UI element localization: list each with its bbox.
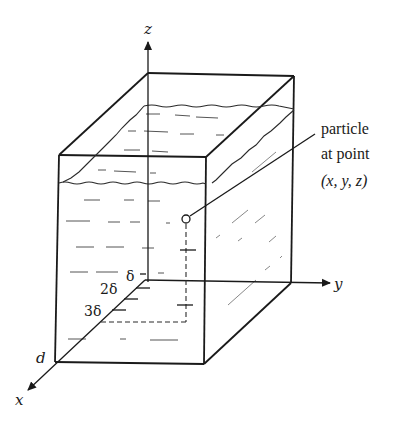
y-axis-label: y xyxy=(333,275,343,293)
annotation-line-1: particle xyxy=(321,120,369,138)
x-axis-label: x xyxy=(15,391,24,409)
tick-label-2delta: 2δ xyxy=(100,281,117,297)
particle-marker xyxy=(182,215,190,223)
tank-edges xyxy=(55,73,294,364)
y-axis xyxy=(145,280,330,283)
annotation-line-3: (x, y, z) xyxy=(321,172,367,190)
water-surface xyxy=(59,105,294,184)
z-axis-label: z xyxy=(143,20,152,38)
annotation-leader-line xyxy=(190,134,315,216)
axes xyxy=(28,42,330,390)
x-axis xyxy=(28,280,145,390)
tick-label-3delta: 3δ xyxy=(84,303,101,319)
annotation-line-2: at point xyxy=(321,145,370,163)
depth-label: d xyxy=(36,349,46,367)
tick-label-delta: δ xyxy=(126,268,134,284)
tank-diagram: z y x d δ 2δ 3δ particle at point (x, y,… xyxy=(0,0,403,436)
